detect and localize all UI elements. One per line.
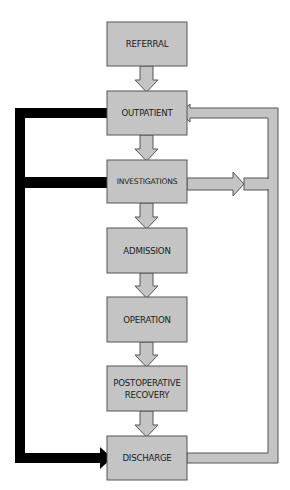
node-label: REFERRAL [126,39,169,49]
node-label-line1: POSTOPERATIVE [113,378,180,388]
node-label: OPERATION [123,315,170,325]
black-bypass-path [15,108,112,469]
node-referral: REFERRAL [107,22,187,66]
node-postoperative-recovery: POSTOPERATIVE RECOVERY [107,366,187,411]
node-label: DISCHARGE [122,453,171,463]
grey-return-loop [180,104,278,463]
node-admission: ADMISSION [107,228,187,273]
node-label-line2: RECOVERY [125,390,170,400]
node-discharge: DISCHARGE [107,436,187,480]
arrow-operation-to-postoperative [135,342,158,367]
node-operation: OPERATION [107,297,187,342]
node-label: ADMISSION [123,246,170,256]
node-label: INVESTIGATIONS [117,177,178,186]
arrow-referral-to-outpatient [135,66,158,92]
node-investigations: INVESTIGATIONS [107,160,187,203]
node-outpatient: OUTPATIENT [107,91,187,135]
arrow-outpatient-to-investigations [135,135,158,161]
investigations-right-arrow [187,172,277,196]
arrow-admission-to-operation [135,273,158,298]
arrow-investigations-to-admission [135,203,158,229]
flowchart-diagram: REFERRAL OUTPATIENT INVESTIGATIONS ADMIS… [0,0,290,490]
node-label: OUTPATIENT [121,108,173,118]
arrow-postoperative-to-discharge [135,411,158,437]
